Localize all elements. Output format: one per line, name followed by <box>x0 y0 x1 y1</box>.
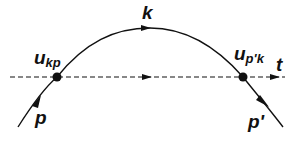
label-k: k <box>142 2 154 23</box>
label-p: p <box>34 107 47 128</box>
arrow-k <box>141 25 151 31</box>
label-t: t <box>276 54 283 75</box>
label-u-kp: ukp <box>34 47 61 70</box>
vertex-ukp <box>53 73 62 82</box>
label-p-prime: p' <box>247 111 266 132</box>
arrow-p-prime <box>256 95 269 107</box>
label-u-pk: up'k <box>234 43 265 66</box>
feynman-diagram: k t p p' ukp up'k <box>0 0 297 142</box>
vertex-upk <box>239 73 248 82</box>
arrow-t-middle <box>142 74 152 80</box>
